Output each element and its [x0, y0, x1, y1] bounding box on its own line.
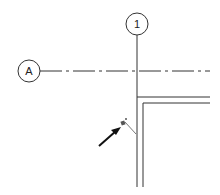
pointer-arrow-icon	[99, 127, 121, 146]
plan-drawing	[0, 0, 220, 195]
grid-label-a: A	[18, 60, 40, 82]
wall-inner-corner	[143, 103, 210, 187]
drawing-canvas: 1 A	[0, 0, 220, 195]
leader-line	[125, 122, 136, 134]
tag-marker-dot	[125, 118, 127, 120]
grid-label-1: 1	[126, 13, 148, 35]
tag-marker-icon	[120, 120, 125, 125]
